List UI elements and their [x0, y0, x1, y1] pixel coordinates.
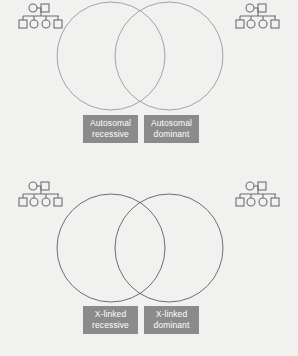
pedigree-mother-circle-icon	[246, 182, 254, 190]
label-line-1: Autosomal	[90, 118, 131, 129]
pedigree-father-square-icon	[41, 182, 49, 190]
pedigree-father-square-icon	[41, 4, 49, 12]
label-line-2: dominant	[154, 320, 190, 331]
pedigree-chart-icon-xlinked-recessive	[17, 181, 63, 207]
pedigree-father-square-icon	[258, 182, 266, 190]
pedigree-child-square-1-icon	[236, 20, 244, 28]
pedigree-child-circle-2-icon	[247, 20, 255, 28]
pedigree-child-square-4-icon	[54, 20, 62, 28]
pedigree-father-square-icon	[258, 4, 266, 12]
pedigree-mother-circle-icon	[246, 4, 254, 12]
pedigree-mother-circle-icon	[29, 182, 37, 190]
label-line-2: dominant	[154, 129, 190, 140]
pedigree-child-square-4-icon	[271, 198, 279, 206]
pedigree-child-circle-3-icon	[42, 198, 50, 206]
venn-circle-xlinked-recessive	[57, 194, 165, 302]
label-xlinked-recessive: X-linked recessive	[83, 306, 138, 334]
pedigree-child-square-4-icon	[271, 20, 279, 28]
pedigree-child-square-1-icon	[236, 198, 244, 206]
label-line-1: X-linked	[156, 309, 188, 320]
pedigree-child-circle-3-icon	[259, 20, 267, 28]
pedigree-chart-icon-autosomal-recessive	[17, 3, 63, 29]
label-line-1: X-linked	[95, 309, 127, 320]
pedigree-child-circle-2-icon	[30, 198, 38, 206]
label-line-2: recessive	[92, 320, 129, 331]
pedigree-child-square-1-icon	[19, 20, 27, 28]
pedigree-child-square-1-icon	[19, 198, 27, 206]
label-autosomal-recessive: Autosomal recessive	[83, 115, 138, 143]
label-line-1: Autosomal	[151, 118, 192, 129]
pedigree-child-circle-2-icon	[30, 20, 38, 28]
pedigree-child-square-4-icon	[54, 198, 62, 206]
pedigree-child-circle-3-icon	[259, 198, 267, 206]
label-autosomal-dominant: Autosomal dominant	[144, 115, 199, 143]
venn-circle-autosomal-recessive	[57, 2, 165, 110]
pedigree-chart-icon-xlinked-dominant	[234, 181, 280, 207]
pedigree-mother-circle-icon	[29, 4, 37, 12]
pedigree-child-circle-3-icon	[42, 20, 50, 28]
venn-circle-xlinked-dominant	[115, 194, 223, 302]
label-xlinked-dominant: X-linked dominant	[144, 306, 199, 334]
label-line-2: recessive	[92, 129, 129, 140]
pedigree-child-circle-2-icon	[247, 198, 255, 206]
pedigree-chart-icon-autosomal-dominant	[234, 3, 280, 29]
venn-circle-autosomal-dominant	[115, 2, 223, 110]
figure-canvas: Autosomal recessive Autosomal dominant	[0, 0, 298, 356]
